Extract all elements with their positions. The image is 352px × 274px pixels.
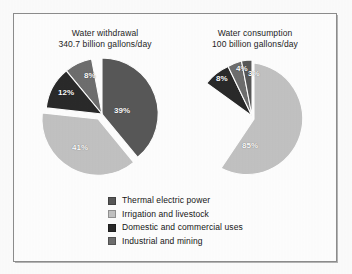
- legend-swatch-irrigation-and-livestock: [108, 210, 116, 218]
- slice-label-industrial-and-mining: 8%: [84, 71, 96, 80]
- chart-title-line-2: 100 billion gallons/day: [180, 39, 330, 50]
- chart-water-withdrawal: Water withdrawal 340.7 billion gallons/d…: [30, 28, 180, 180]
- legend-label-thermal-electric-power: Thermal electric power: [122, 195, 210, 206]
- chart-title-line-2: 340.7 billion gallons/day: [30, 39, 180, 50]
- chart-title-water-withdrawal: Water withdrawal 340.7 billion gallons/d…: [30, 28, 180, 49]
- legend-label-domestic-and-commercial-uses: Domestic and commercial uses: [122, 222, 243, 233]
- chart-title-line-1: Water withdrawal: [30, 28, 180, 39]
- slice-label-domestic-and-commercial-uses: 8%: [216, 74, 228, 83]
- figure-root: Water withdrawal 340.7 billion gallons/d…: [0, 0, 352, 274]
- legend-item-irrigation-and-livestock: Irrigation and livestock: [108, 208, 298, 221]
- slice-label-thermal-electric-power: 39%: [114, 106, 130, 115]
- legend-swatch-industrial-and-mining: [108, 237, 116, 245]
- slice-label-industrial-and-mining: 4%: [236, 64, 248, 73]
- slice-label-thermal-electric-power: 3%: [248, 69, 260, 78]
- legend-label-irrigation-and-livestock: Irrigation and livestock: [122, 209, 209, 220]
- pie-wrap-water-consumption: 85% 8% 4% 3%: [180, 52, 330, 180]
- legend-swatch-thermal-electric-power: [108, 197, 116, 205]
- legend-item-thermal-electric-power: Thermal electric power: [108, 194, 298, 207]
- slice-label-domestic-and-commercial-uses: 12%: [58, 88, 74, 97]
- chart-water-consumption: Water consumption 100 billion gallons/da…: [180, 28, 330, 180]
- slice-label-irrigation-and-livestock: 41%: [72, 143, 88, 152]
- legend-item-industrial-and-mining: Industrial and mining: [108, 235, 298, 248]
- chart-title-line-1: Water consumption: [180, 28, 330, 39]
- chart-title-water-consumption: Water consumption 100 billion gallons/da…: [180, 28, 330, 49]
- legend-label-industrial-and-mining: Industrial and mining: [122, 236, 203, 247]
- pie-wrap-water-withdrawal: 39% 41% 12% 8%: [30, 52, 180, 180]
- legend-swatch-domestic-and-commercial-uses: [108, 224, 116, 232]
- pie-chart-water-withdrawal: [30, 52, 180, 180]
- legend-item-domestic-and-commercial-uses: Domestic and commercial uses: [108, 221, 298, 234]
- chart-legend: Thermal electric power Irrigation and li…: [108, 194, 298, 248]
- slice-label-irrigation-and-livestock: 85%: [242, 141, 258, 150]
